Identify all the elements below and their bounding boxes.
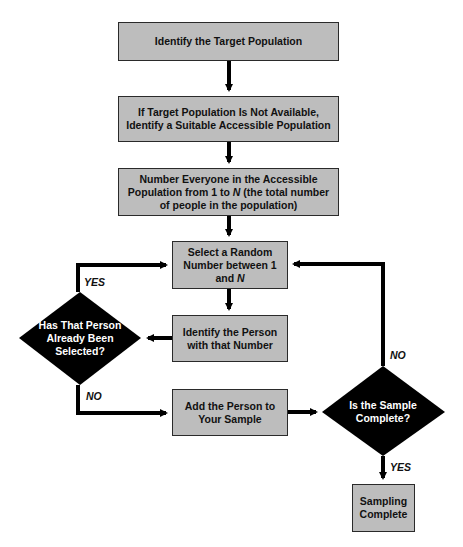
label-yes-sample-complete: YES [390,461,411,473]
label-no-already-selected: NO [86,390,102,402]
step-text: Identify the Person with that Number [177,326,283,352]
label-no-sample-complete: NO [390,349,406,361]
label-yes-already-selected: YES [84,276,105,288]
step-add-person: Add the Person to Your Sample [172,389,288,436]
step-select-random: Select a Random Number between 1 and N [172,241,288,289]
step-sampling-complete: Sampling Complete [352,484,415,532]
decision-text: Has That Person Already Been Selected? [34,319,126,358]
decision-text-already-selected: Has That Person Already Been Selected? [34,314,126,362]
arrow-no-loop [294,264,383,366]
step-accessible-population: If Target Population Is Not Available, I… [118,96,339,142]
decision-text: Is the Sample Complete? [338,399,428,425]
step-text: If Target Population Is Not Available, I… [123,106,334,132]
step-identify-target: Identify the Target Population [118,22,339,61]
step-text: Sampling Complete [355,495,412,521]
decision-text-sample-complete: Is the Sample Complete? [338,392,428,432]
step-text: Add the Person to Your Sample [177,400,283,426]
step-text: Identify the Target Population [155,35,302,48]
text-italic-n: N [237,272,245,284]
step-identify-person: Identify the Person with that Number [172,315,288,362]
step-number-everyone: Number Everyone in the Accessible Popula… [118,168,339,216]
step-text: Number Everyone in the Accessible Popula… [123,173,334,212]
step-text: Select a Random Number between 1 and N [177,246,283,285]
text-part: Select a Random Number between 1 and [183,246,276,284]
